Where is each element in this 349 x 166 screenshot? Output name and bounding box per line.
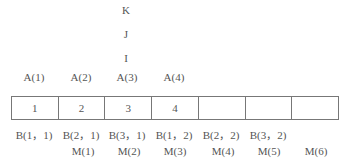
stack-letter-k: K	[116, 4, 136, 16]
label-b21: B(2，1)	[56, 126, 106, 142]
label-a3: A(3)	[104, 71, 150, 83]
array-cell	[199, 97, 246, 119]
label-a4: A(4)	[151, 71, 197, 83]
label-a1: A(1)	[11, 71, 57, 83]
label-m4: M(4)	[200, 145, 246, 157]
label-b22: B(2，2)	[196, 126, 246, 142]
array-cell: 2	[59, 97, 106, 119]
label-m2: M(2)	[106, 145, 152, 157]
label-m6: M(6)	[293, 145, 339, 157]
label-m3: M(3)	[152, 145, 198, 157]
label-b11: B(1，1)	[9, 126, 59, 142]
array-cell: 3	[105, 97, 152, 119]
label-a2: A(2)	[58, 71, 104, 83]
label-b32: B(3，2)	[243, 126, 293, 142]
array-cell	[246, 97, 293, 119]
label-b12: B(1，2)	[149, 126, 199, 142]
label-m1: M(1)	[60, 145, 106, 157]
array-cell: 1	[12, 97, 59, 119]
array-cell: 4	[152, 97, 199, 119]
memory-array: 1 2 3 4	[11, 96, 339, 120]
label-m5: M(5)	[246, 145, 292, 157]
array-cell	[292, 97, 338, 119]
stack-letter-i: I	[116, 52, 136, 64]
label-b31: B(3，1)	[102, 126, 152, 142]
stack-letter-j: J	[116, 28, 136, 40]
